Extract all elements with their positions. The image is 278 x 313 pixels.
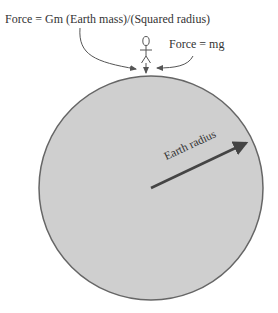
stick-figure-icon — [140, 37, 152, 64]
gravity-label-pointer — [80, 28, 136, 69]
gravity-diagram — [0, 0, 278, 313]
weight-label-pointer — [157, 56, 193, 68]
gravity-formula-label: Force = Gm (Earth mass)/(Squared radius) — [5, 12, 210, 27]
weight-formula-label: Force = mg — [169, 37, 224, 52]
